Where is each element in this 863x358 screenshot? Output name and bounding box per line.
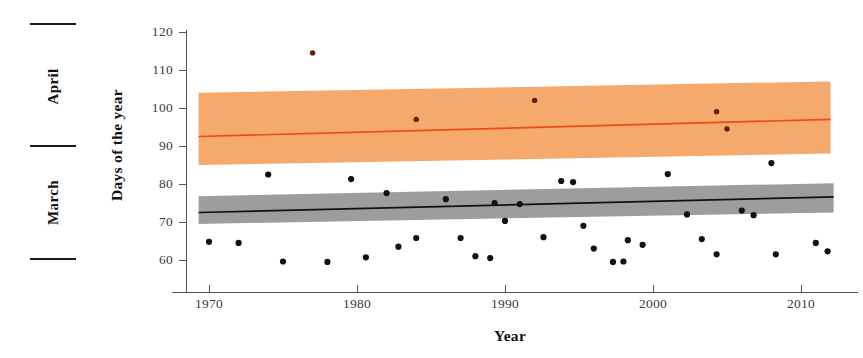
- data-point: [768, 160, 774, 166]
- data-point: [280, 258, 286, 264]
- x-axis-tick: [653, 285, 654, 292]
- data-point: [384, 190, 390, 196]
- data-point: [502, 218, 508, 224]
- data-point: [310, 50, 315, 55]
- x-tick-label: 1980: [332, 296, 382, 312]
- data-point: [714, 109, 719, 114]
- data-point: [591, 246, 597, 252]
- data-point: [414, 117, 419, 122]
- x-tick-label: 1990: [480, 296, 530, 312]
- x-axis-tick: [209, 285, 210, 292]
- data-point: [813, 240, 819, 246]
- data-point: [580, 223, 586, 229]
- confidence-band: [199, 81, 831, 165]
- data-point: [472, 253, 478, 259]
- data-point: [751, 212, 757, 218]
- data-point: [458, 235, 464, 241]
- data-point: [699, 236, 705, 242]
- data-point: [443, 196, 449, 202]
- scatter-plot-svg: [0, 0, 863, 358]
- data-point: [395, 244, 401, 250]
- data-point: [348, 176, 354, 182]
- data-point: [487, 255, 493, 261]
- x-tick-label: 2000: [628, 296, 678, 312]
- x-tick-label: 1970: [184, 296, 234, 312]
- data-point: [206, 239, 212, 245]
- data-point: [540, 234, 546, 240]
- data-point: [724, 126, 729, 131]
- x-tick-label: 2010: [776, 296, 826, 312]
- data-point: [570, 179, 576, 185]
- data-point: [640, 242, 646, 248]
- data-point: [324, 259, 330, 265]
- data-point: [492, 200, 498, 206]
- data-point: [517, 201, 523, 207]
- data-point: [558, 178, 564, 184]
- data-point: [620, 258, 626, 264]
- data-point: [236, 240, 242, 246]
- x-axis-spine: [172, 292, 858, 293]
- data-point: [610, 259, 616, 265]
- confidence-band: [199, 183, 834, 224]
- plot-area: [0, 0, 863, 358]
- data-point: [739, 208, 745, 214]
- chart-figure: April March Days of the year 120 110 100…: [0, 0, 863, 358]
- data-point: [773, 251, 779, 257]
- data-point: [413, 235, 419, 241]
- x-axis-tick: [505, 285, 506, 292]
- data-point: [625, 237, 631, 243]
- data-point: [684, 211, 690, 217]
- data-point: [714, 251, 720, 257]
- data-point: [532, 98, 537, 103]
- data-point: [825, 248, 831, 254]
- data-point: [665, 171, 671, 177]
- confidence-bands: [199, 81, 834, 224]
- x-axis-tick: [357, 285, 358, 292]
- x-axis-tick: [801, 285, 802, 292]
- data-point: [265, 171, 271, 177]
- data-point: [363, 254, 369, 260]
- x-axis-label: Year: [470, 327, 550, 345]
